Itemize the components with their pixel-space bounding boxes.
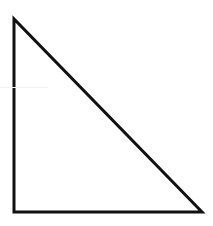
right-triangle-figure bbox=[0, 0, 213, 226]
diagram-canvas bbox=[0, 0, 213, 226]
right-triangle bbox=[14, 19, 202, 212]
faint-guide-line bbox=[0, 87, 48, 88]
